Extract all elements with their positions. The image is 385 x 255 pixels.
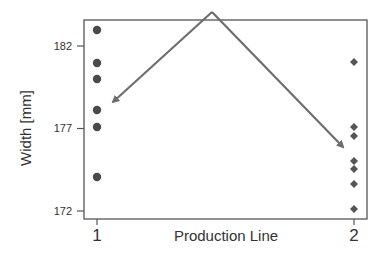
data-point — [93, 106, 101, 114]
data-point — [350, 157, 358, 165]
data-point — [93, 59, 101, 67]
x-axis-title: Production Line — [174, 227, 278, 244]
series-production-line-2 — [350, 58, 358, 213]
data-point — [350, 132, 358, 140]
arrow-to-line-1 — [113, 12, 212, 102]
y-tick-label-172: 172 — [54, 205, 72, 217]
x-tick-label-2: 2 — [349, 226, 358, 245]
data-point — [93, 173, 101, 181]
data-point — [350, 180, 358, 188]
y-tick-label-182: 182 — [54, 40, 72, 52]
y-axis-title: Width [mm] — [17, 90, 34, 166]
data-point — [93, 75, 101, 83]
annotation-arrows — [113, 12, 343, 147]
data-point — [350, 123, 358, 131]
data-point — [350, 58, 358, 66]
data-point — [350, 205, 358, 213]
plot-area — [84, 20, 367, 219]
data-point — [350, 165, 358, 173]
y-tick-label-177: 177 — [54, 122, 72, 134]
arrow-to-line-2 — [212, 12, 343, 147]
series-production-line-1 — [93, 26, 101, 181]
y-axis: 182 177 172 — [54, 40, 84, 217]
x-tick-label-1: 1 — [92, 226, 101, 245]
data-point — [93, 26, 101, 34]
scatter-chart: 182 177 172 1 2 Production Line Width [m… — [0, 0, 385, 255]
data-point — [93, 123, 101, 131]
